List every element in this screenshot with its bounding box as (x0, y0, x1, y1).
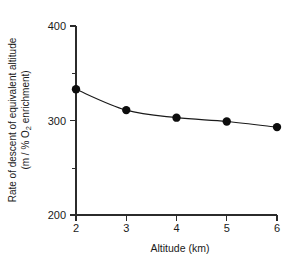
y-axis-title-line2-prefix: (m / % O (20, 130, 31, 170)
y-axis-title-line1: Rate of descent of equivalent altitude (7, 37, 18, 202)
chart-figure: 400 300 200 2 3 4 5 6 Altitude (km) Rate… (0, 0, 289, 266)
chart-background (0, 0, 289, 266)
x-tick-label-3: 3 (123, 222, 129, 234)
chart-canvas: 400 300 200 2 3 4 5 6 Altitude (km) Rate… (0, 0, 289, 266)
y-tick-label-200: 200 (48, 209, 66, 221)
x-tick-label-4: 4 (173, 222, 179, 234)
data-point (273, 123, 281, 131)
x-axis-title: Altitude (km) (151, 242, 210, 254)
x-tick-label-6: 6 (274, 222, 280, 234)
data-point (223, 117, 231, 125)
data-point (172, 113, 180, 121)
y-tick-label-400: 400 (48, 20, 66, 32)
y-axis-title-line2-suffix: enrichment) (20, 70, 31, 126)
x-tick-label-5: 5 (224, 222, 230, 234)
y-tick-label-300: 300 (48, 115, 66, 127)
x-tick-label-2: 2 (73, 222, 79, 234)
data-point (72, 85, 80, 93)
data-point (122, 106, 130, 114)
